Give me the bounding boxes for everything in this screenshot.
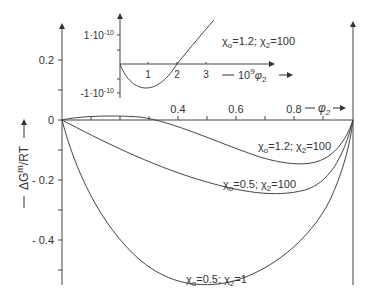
chart: 0.2 0 - 0.2 - 0.4 0.4 0.6 0.8 φ2 ΔGm/RT …: [0, 0, 367, 302]
x-axis: [62, 116, 353, 120]
x-tick-0.6: 0.6: [228, 103, 243, 115]
y-axis: [58, 26, 62, 285]
svg-text:ΔGm/RT: ΔGm/RT: [15, 145, 31, 190]
inset-curve-label: χo=1.2; χ2=100: [222, 35, 295, 50]
y-tick-neg0.4: - 0.4: [32, 234, 54, 246]
x-tick-0.4: 0.4: [170, 103, 185, 115]
svg-text:φ2: φ2: [318, 101, 331, 117]
inset-y-tick-neg: -1·10-10: [81, 87, 115, 99]
inset-y-tick-pos: 1·10-10: [84, 29, 114, 41]
inset-x-tick-1: 1: [145, 69, 151, 80]
y-tick-0.2: 0.2: [39, 54, 54, 66]
y-tick-0: 0: [48, 114, 54, 126]
x-tick-0.8: 0.8: [286, 103, 301, 115]
inset-x-tick-3: 3: [203, 69, 209, 80]
curve-chi0.5-chi2-100: [62, 120, 353, 194]
curve-label-2: χo=0.5; χ2=100: [223, 178, 296, 193]
inset-chart: 1·10-10 -1·10-10 1 2 3 109φ2 χo=1.2; χ2=…: [81, 16, 296, 99]
inset-x-label: 109φ2: [222, 67, 290, 84]
svg-text:109φ2: 109φ2: [238, 67, 267, 84]
y-axis-label: ΔGm/RT: [15, 122, 31, 208]
y-tick-neg0.2: - 0.2: [32, 174, 54, 186]
curve-label-3: χo=0.5; χ2=1: [186, 273, 247, 288]
inset-x-tick-2: 2: [174, 69, 180, 80]
inset-curve: [120, 20, 214, 88]
curve-label-1: χo=1.2; χ2=100: [258, 140, 331, 155]
x-axis-label: φ2: [305, 101, 343, 117]
